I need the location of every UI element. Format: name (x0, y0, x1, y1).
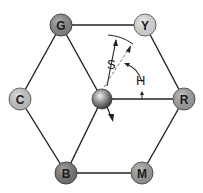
node-M-label: M (137, 167, 147, 181)
value-arrowhead-icon (108, 114, 114, 122)
node-B: B (55, 162, 77, 184)
saturation-label: S (107, 57, 116, 72)
spoke-center-G (61, 25, 102, 99)
node-B-label: B (62, 167, 71, 181)
saturation-arc (108, 35, 133, 44)
edge-B-C (20, 99, 66, 173)
node-G-label: G (56, 19, 65, 33)
node-R-label: R (180, 93, 189, 107)
node-Y-label: Y (141, 19, 149, 33)
edge-Y-R (145, 25, 184, 99)
edge-C-G (20, 25, 61, 99)
edge-R-M (142, 99, 184, 173)
node-C: C (9, 88, 31, 110)
node-R: R (173, 88, 195, 110)
node-M: M (131, 162, 153, 184)
center-sphere (92, 89, 112, 109)
node-G: G (50, 14, 72, 36)
node-Y: Y (134, 14, 156, 36)
hue-tick-arrowhead-icon (140, 91, 144, 95)
hsv-hexcone-diagram: S H G Y C R B M (0, 0, 203, 193)
node-C-label: C (16, 93, 25, 107)
hue-label: H (136, 73, 145, 88)
spoke-center-B (66, 99, 102, 173)
